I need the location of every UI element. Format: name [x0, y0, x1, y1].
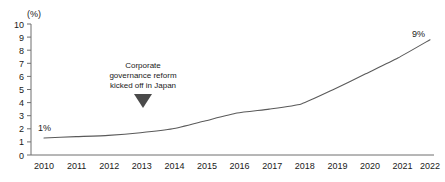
x-tick-label-2015: 2015 [197, 161, 217, 171]
y-tick-label-0: 0 [19, 151, 24, 161]
down-triangle-icon [134, 94, 152, 108]
y-tick-label-8: 8 [19, 46, 24, 56]
y-axis-unit-label: (%) [27, 9, 41, 19]
x-tick-label-2017: 2017 [262, 161, 282, 171]
x-tick-label-2013: 2013 [132, 161, 152, 171]
y-tick-label-9: 9 [19, 33, 24, 43]
x-tick-label-2010: 2010 [34, 161, 54, 171]
y-tick-label-2: 2 [19, 124, 24, 134]
y-tick-label-7: 7 [19, 59, 24, 69]
reform-callout-line-3: kicked off in Japan [110, 81, 176, 90]
y-tick-label-1: 1 [19, 137, 24, 147]
x-tick-label-2016: 2016 [230, 161, 250, 171]
x-tick-label-2022: 2022 [420, 161, 440, 171]
reform-callout-line-1: Corporate [125, 61, 161, 70]
reform-callout: Corporate governance reform kicked off i… [109, 61, 176, 108]
y-axis [27, 24, 31, 155]
series-line [44, 40, 430, 138]
y-tick-label-5: 5 [19, 85, 24, 95]
x-tick-label-2019: 2019 [327, 161, 347, 171]
line-chart: (%) 10 9 8 7 6 5 4 3 2 1 0 2010 2011 201… [0, 0, 445, 182]
start-value-label: 1% [38, 123, 51, 133]
end-value-label: 9% [412, 29, 425, 39]
y-tick-label-10: 10 [14, 20, 24, 30]
x-tick-label-2012: 2012 [99, 161, 119, 171]
chart-canvas: (%) 10 9 8 7 6 5 4 3 2 1 0 2010 2011 201… [0, 0, 445, 182]
x-tick-label-2021: 2021 [393, 161, 413, 171]
x-tick-label-2020: 2020 [360, 161, 380, 171]
y-tick-label-4: 4 [19, 98, 24, 108]
x-tick-label-2018: 2018 [295, 161, 315, 171]
y-tick-label-6: 6 [19, 72, 24, 82]
x-tick-label-2011: 2011 [67, 161, 86, 171]
reform-callout-line-2: governance reform [109, 71, 176, 80]
y-tick-label-3: 3 [19, 111, 24, 121]
x-tick-label-2014: 2014 [164, 161, 184, 171]
